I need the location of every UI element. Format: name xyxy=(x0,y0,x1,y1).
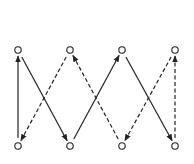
zigzag-graph-diagram xyxy=(0,0,194,164)
node-T1 xyxy=(15,47,21,53)
node-T4 xyxy=(172,47,178,53)
edges-layer xyxy=(18,55,175,140)
node-B4 xyxy=(172,143,178,149)
edge-T2-to-B1-dashed xyxy=(21,57,66,141)
edge-T3-to-B4-solid xyxy=(126,57,172,141)
node-T3 xyxy=(119,47,125,53)
node-B2 xyxy=(67,143,73,149)
edge-B3-to-T2-dashed xyxy=(73,55,118,139)
edge-T4-to-B3-dashed xyxy=(125,57,171,141)
edge-T1-to-B2-solid xyxy=(22,57,67,141)
edge-B2-to-T3-solid xyxy=(74,55,119,139)
node-B3 xyxy=(119,143,125,149)
node-T2 xyxy=(67,47,73,53)
node-B1 xyxy=(15,143,21,149)
